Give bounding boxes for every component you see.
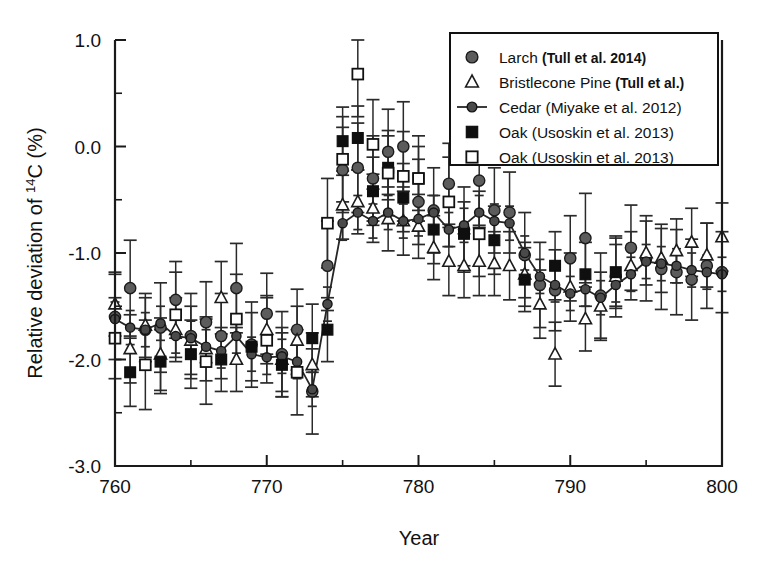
marker-larch (686, 274, 697, 285)
marker-bristlecone-pine (443, 255, 455, 266)
marker-oak-filled (125, 367, 136, 378)
marker-oak-open (170, 309, 181, 320)
marker-oak-filled (428, 224, 439, 235)
marker-bristlecone-pine (625, 259, 637, 270)
marker-cedar (293, 357, 302, 366)
marker-oak-open (231, 314, 242, 325)
legend-reference: (Miyake et al. 2012) (546, 99, 682, 116)
marker-oak-filled (519, 274, 530, 285)
marker-oak-filled (466, 126, 477, 137)
marker-bristlecone-pine (488, 257, 500, 268)
marker-oak-filled (550, 260, 561, 271)
marker-oak-filled (155, 356, 166, 367)
marker-oak-open (466, 151, 477, 162)
marker-bristlecone-pine (503, 259, 515, 270)
legend-label: Oak (Usoskin et al. 2013) (499, 124, 674, 141)
marker-cedar (368, 216, 377, 225)
marker-cedar (626, 270, 635, 279)
chart-legend: Larch (Tull et al. 2014)Bristlecone Pine… (450, 33, 718, 166)
x-tick-label: 800 (706, 476, 738, 497)
marker-cedar (490, 216, 499, 225)
marker-oak-open (413, 173, 424, 184)
marker-cedar (657, 259, 666, 268)
marker-larch (580, 232, 591, 243)
y-tick-label: 0.0 (75, 137, 101, 158)
marker-oak-filled (489, 235, 500, 246)
marker-cedar (429, 208, 438, 217)
marker-bristlecone-pine (579, 312, 591, 323)
legend-reference: (Usoskin et al. 2013) (532, 124, 674, 141)
marker-larch (504, 207, 515, 218)
marker-oak-open (443, 196, 454, 207)
marker-cedar (399, 216, 408, 225)
marker-cedar (338, 219, 347, 228)
marker-oak-filled (246, 341, 257, 352)
legend-label: Larch (Tull et al. 2014) (499, 49, 646, 66)
marker-larch (466, 51, 478, 63)
x-tick-label: 780 (403, 476, 435, 497)
marker-bristlecone-pine (473, 255, 485, 266)
marker-cedar (414, 214, 423, 223)
marker-oak-open (398, 171, 409, 182)
marker-cedar (520, 248, 529, 257)
marker-cedar (505, 219, 514, 228)
marker-cedar (566, 289, 575, 298)
x-tick-label: 770 (251, 476, 283, 497)
marker-cedar (550, 280, 559, 289)
marker-cedar (687, 265, 696, 274)
marker-larch (383, 146, 394, 157)
marker-oak-filled (322, 324, 333, 335)
marker-oak-filled (277, 359, 288, 370)
marker-oak-open (322, 218, 333, 229)
marker-cedar (642, 257, 651, 266)
legend-reference: (Tull et al. 2014) (542, 50, 646, 66)
marker-oak-filled (185, 349, 196, 360)
y-axis-title: Relative deviation of 14C (%) (23, 127, 47, 378)
x-tick-label: 760 (99, 476, 131, 497)
marker-larch (322, 260, 333, 271)
y-tick-label: -1.0 (68, 243, 101, 264)
marker-oak-filled (337, 136, 348, 147)
marker-cedar (126, 323, 135, 332)
marker-larch (413, 196, 424, 207)
marker-oak-open (292, 367, 303, 378)
marker-cedar (156, 319, 165, 328)
marker-cedar (672, 261, 681, 270)
marker-larch (337, 164, 348, 175)
marker-bristlecone-pine (337, 198, 349, 209)
marker-bristlecone-pine (352, 195, 364, 206)
marker-cedar (467, 102, 477, 112)
legend-reference: (Tull et al.) (615, 75, 684, 91)
marker-oak-filled (610, 267, 621, 278)
legend-label: Cedar (Miyake et al. 2012) (499, 99, 682, 116)
chart-canvas: 7607707807908001.00.0-1.0-2.0-3.0 Year R… (0, 0, 771, 567)
marker-oak-open (368, 139, 379, 150)
marker-cedar (702, 268, 711, 277)
marker-bristlecone-pine (640, 246, 652, 257)
y-tick-label: -2.0 (68, 350, 101, 371)
marker-cedar (323, 300, 332, 309)
legend-item[interactable]: Bristlecone Pine (Tull et al.) (466, 74, 685, 91)
y-tick-label: -3.0 (68, 456, 101, 477)
marker-bristlecone-pine (549, 348, 561, 359)
marker-bristlecone-pine (534, 298, 546, 309)
marker-cedar (475, 208, 484, 217)
marker-oak-open (474, 228, 485, 239)
marker-larch (200, 317, 211, 328)
marker-larch (489, 205, 500, 216)
x-tick-label: 790 (554, 476, 586, 497)
marker-larch (125, 283, 136, 294)
marker-cedar (444, 225, 453, 234)
y-tick-label: 1.0 (75, 30, 101, 51)
marker-larch (398, 141, 409, 152)
marker-oak-open (383, 168, 394, 179)
marker-oak-filled (580, 269, 591, 280)
marker-oak-filled (459, 228, 470, 239)
marker-cedar (535, 272, 544, 281)
marker-bristlecone-pine (230, 353, 242, 364)
marker-larch (443, 178, 454, 189)
marker-cedar (141, 325, 150, 334)
marker-larch (216, 330, 227, 341)
marker-larch (261, 308, 272, 319)
marker-bristlecone-pine (291, 334, 303, 345)
